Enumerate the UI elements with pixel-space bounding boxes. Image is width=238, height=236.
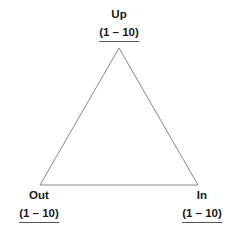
vertex-name-up: Up — [99, 8, 139, 22]
vertex-name-in: In — [182, 189, 222, 203]
vertex-label-up: Up (1 – 10) — [99, 8, 139, 42]
vertex-label-out: Out (1 – 10) — [19, 189, 59, 223]
vertex-range-up: (1 – 10) — [99, 26, 139, 43]
vertex-range-out: (1 – 10) — [19, 207, 59, 224]
vertex-name-out: Out — [19, 189, 59, 203]
triangle-diagram: Up (1 – 10) Out (1 – 10) In (1 – 10) — [0, 0, 238, 236]
triangle-outline — [40, 48, 198, 185]
vertex-label-in: In (1 – 10) — [182, 189, 222, 223]
vertex-range-in: (1 – 10) — [182, 207, 222, 224]
